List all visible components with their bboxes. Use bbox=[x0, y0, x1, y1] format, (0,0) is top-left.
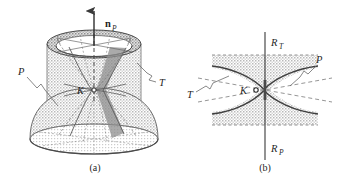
normal-vector-subscript: P bbox=[111, 24, 117, 33]
figure-svg: n P K P T (a) bbox=[0, 0, 345, 182]
label-p-a: P bbox=[17, 66, 25, 77]
caption-b: (b) bbox=[259, 162, 271, 174]
radius-p-label: R bbox=[270, 143, 278, 154]
panel-a: n P K P T (a) bbox=[17, 11, 166, 174]
contact-point-marker-a bbox=[92, 88, 96, 92]
label-p-b: P bbox=[315, 54, 323, 65]
figure-root: n P K P T (a) bbox=[0, 0, 345, 182]
label-t-b: T bbox=[187, 89, 194, 100]
panel-b: K R T R P T P (b) bbox=[187, 32, 332, 174]
radius-t-subscript: T bbox=[279, 42, 284, 51]
contact-point-label-b: K bbox=[239, 85, 248, 96]
radius-p-subscript: P bbox=[278, 148, 284, 157]
caption-a: (a) bbox=[89, 162, 100, 174]
contact-point-marker-b bbox=[254, 88, 258, 92]
radius-t-label: R bbox=[270, 37, 278, 48]
contact-point-label-a: K bbox=[76, 85, 85, 96]
axis-b-core bbox=[264, 80, 267, 100]
normal-vector-label: n bbox=[105, 18, 111, 29]
label-t-a: T bbox=[159, 77, 166, 88]
